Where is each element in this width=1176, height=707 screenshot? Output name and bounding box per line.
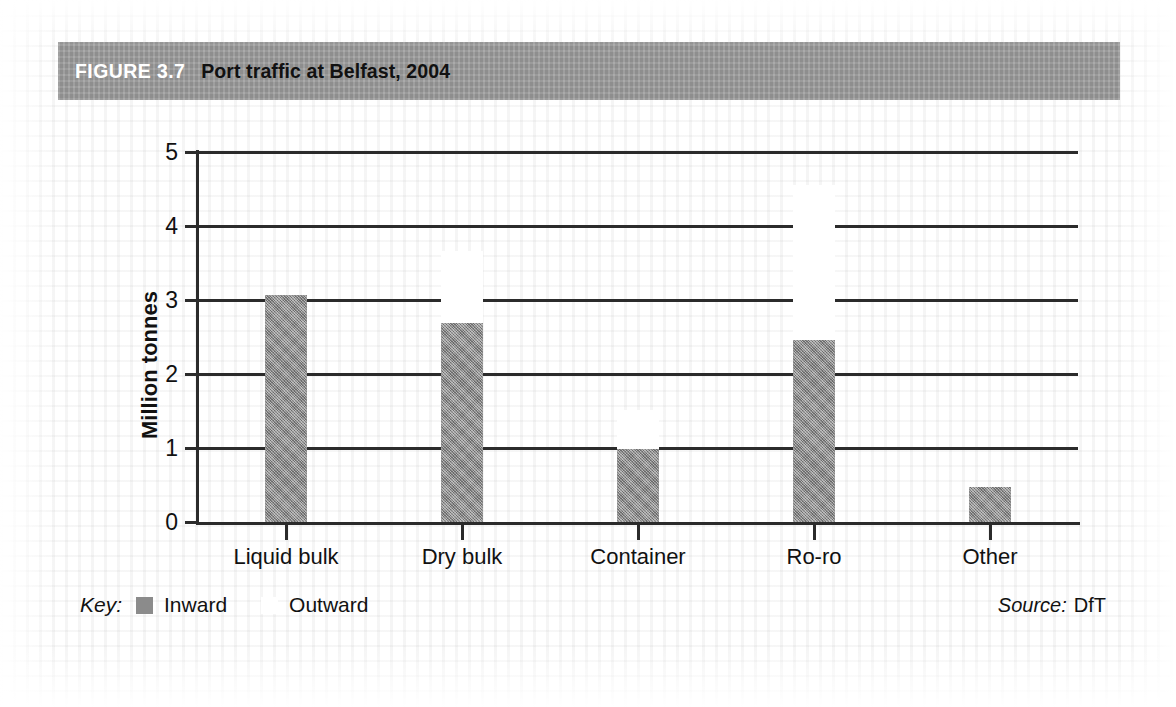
y-axis-line <box>196 150 199 525</box>
legend-entry-label: Outward <box>289 593 368 617</box>
x-axis-tick-label: Dry bulk <box>422 544 503 570</box>
bar-segment-inward <box>793 340 835 522</box>
bar-group <box>265 152 307 522</box>
bar-group <box>793 152 835 522</box>
bar-segment-inward <box>441 323 483 522</box>
bar-stack <box>441 251 483 522</box>
y-axis-tick <box>185 521 199 524</box>
x-axis-tick <box>637 525 640 540</box>
chart-legend: Key: InwardOutward <box>80 590 402 620</box>
figure-footer: Key: InwardOutward Source: DfT <box>58 590 1120 638</box>
x-axis-tick <box>989 525 992 540</box>
y-axis-tick <box>185 299 199 302</box>
x-axis-tick <box>813 525 816 540</box>
figure-number: FIGURE 3.7 <box>75 60 185 83</box>
bar-segment-outward <box>793 185 835 340</box>
bar-stack <box>617 410 659 522</box>
y-axis-tick <box>185 373 199 376</box>
y-axis-tick-label: 4 <box>165 215 178 238</box>
source-note: Source: DfT <box>998 590 1106 620</box>
y-axis-tick-label: 3 <box>165 289 178 312</box>
x-axis-tick-label: Ro-ro <box>786 544 841 570</box>
source-value: DfT <box>1074 594 1106 617</box>
bar-segment-inward <box>969 487 1011 522</box>
bar-segment-outward <box>441 251 483 323</box>
bar-stack <box>265 295 307 522</box>
figure-header-band: FIGURE 3.7 Port traffic at Belfast, 2004 <box>58 42 1120 100</box>
y-axis-tick <box>185 151 199 154</box>
bar-group <box>617 152 659 522</box>
chart-canvas: 012345 Liquid bulkDry bulkContainerRo-ro… <box>198 152 1078 522</box>
bar-segment-inward <box>617 449 659 522</box>
figure-caption: Port traffic at Belfast, 2004 <box>201 60 450 83</box>
legend-label: Key: <box>80 593 122 617</box>
y-axis-title: Million tonnes <box>137 255 163 475</box>
bar-group <box>441 152 483 522</box>
plot-area: Million tonnes 012345 Liquid bulkDry bul… <box>58 100 1120 662</box>
legend-entries: InwardOutward <box>136 593 402 617</box>
bar-stack <box>969 487 1011 522</box>
bar-segment-outward <box>617 410 659 448</box>
legend-swatch-outward <box>261 597 278 614</box>
y-axis-tick <box>185 225 199 228</box>
y-axis-tick-label: 5 <box>165 141 178 164</box>
x-axis-tick <box>461 525 464 540</box>
legend-swatch-inward <box>136 597 153 614</box>
legend-entry-label: Inward <box>164 593 227 617</box>
figure-page: FIGURE 3.7 Port traffic at Belfast, 2004… <box>0 0 1176 707</box>
x-axis-tick-label: Liquid bulk <box>233 544 338 570</box>
y-axis-tick-label: 2 <box>165 363 178 386</box>
y-axis-tick <box>185 447 199 450</box>
legend-entry: Outward <box>261 593 368 617</box>
bar-stack <box>793 185 835 522</box>
legend-entry: Inward <box>136 593 227 617</box>
figure-container: FIGURE 3.7 Port traffic at Belfast, 2004… <box>58 42 1120 662</box>
y-axis-tick-label: 1 <box>165 437 178 460</box>
bar-segment-inward <box>265 295 307 522</box>
x-axis-tick-label: Other <box>962 544 1017 570</box>
x-axis-tick-label: Container <box>590 544 685 570</box>
x-axis-tick <box>285 525 288 540</box>
source-label: Source: <box>998 594 1067 617</box>
bar-group <box>969 152 1011 522</box>
y-axis-tick-label: 0 <box>165 511 178 534</box>
